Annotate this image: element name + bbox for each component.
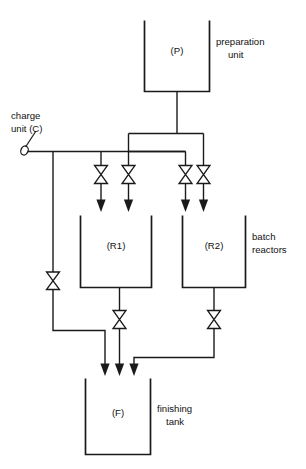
r2-drain-valve — [208, 311, 221, 329]
vessel-finishing-tank: (F) — [86, 379, 151, 455]
preparation-unit-label-line2: unit — [228, 49, 244, 60]
feed-valve-1 — [95, 166, 108, 213]
flow-arrow-icon — [100, 364, 109, 377]
feed-valve-2 — [122, 166, 135, 213]
feed-valve-4 — [197, 166, 210, 213]
flow-arrow-icon — [129, 364, 138, 377]
bowtie-valve-icon — [197, 166, 210, 184]
preparation-unit-tag: (P) — [171, 45, 184, 56]
vessel-preparation-unit: (P) — [145, 21, 210, 92]
batch-reactors-label-line2: reactors — [252, 244, 287, 255]
pipe-bypass-to-finishing — [53, 290, 105, 368]
bowtie-valve-icon — [95, 166, 108, 184]
reactor-r2-tag: (R2) — [205, 240, 224, 251]
vessel-reactor-r1: (R1) — [81, 216, 152, 288]
charge-point-icon — [19, 145, 29, 156]
bowtie-valve-icon — [47, 272, 60, 290]
charge-unit-label-line1: charge — [11, 110, 40, 121]
flow-arrow-icon — [115, 364, 124, 377]
batch-reactors-label-line1: batch — [252, 231, 275, 242]
reactor-r2-outline — [183, 216, 246, 288]
flow-arrow-icon — [96, 200, 105, 213]
feed-valve-3 — [179, 166, 192, 213]
bowtie-valve-icon — [208, 311, 221, 329]
finishing-tank-label-line1: finishing — [157, 403, 192, 414]
reactor-r1-outline — [81, 216, 152, 288]
reactor-r1-tag: (R1) — [107, 240, 126, 251]
process-flow-diagram: (P) preparation unit charge unit (C) — [0, 0, 306, 469]
flow-arrow-icon — [124, 200, 133, 213]
preparation-unit-label-line1: preparation — [216, 36, 265, 47]
pipe-r2-drain-to-finishing — [134, 329, 214, 368]
finishing-tank-tag: (F) — [112, 407, 124, 418]
r1-drain-valve — [113, 311, 126, 329]
bypass-valve — [47, 272, 60, 290]
bowtie-valve-icon — [113, 311, 126, 329]
bowtie-valve-icon — [122, 166, 135, 184]
finishing-tank-label-line2: tank — [166, 416, 184, 427]
bowtie-valve-icon — [179, 166, 192, 184]
charge-unit-label-line2: unit (C) — [11, 123, 42, 134]
flow-arrow-icon — [181, 200, 190, 213]
preparation-unit-outline — [145, 21, 210, 92]
vessel-reactor-r2: (R2) — [183, 216, 246, 288]
flow-arrow-icon — [199, 200, 208, 213]
flowsheet-canvas: (P) preparation unit charge unit (C) — [0, 0, 306, 469]
